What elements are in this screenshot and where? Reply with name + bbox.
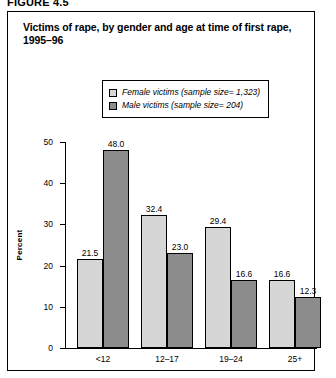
x-axis-line — [65, 348, 317, 349]
bar-female[interactable]: 16.6 — [269, 280, 295, 348]
y-axis-line — [65, 142, 66, 348]
legend-label-female: Female victims (sample size= 1,323) — [122, 87, 260, 98]
bar-group: 32.4 23.0 12–17 — [141, 142, 197, 348]
legend-swatch-male-icon — [109, 102, 117, 110]
figure-number-label: FIGURE 4.5 — [7, 0, 69, 8]
y-axis-tick-label: 40 — [44, 183, 53, 184]
y-axis-tick: 20 — [60, 266, 65, 267]
y-axis-tick: 10 — [60, 307, 65, 308]
chart-title: Victims of rape, by gender and age at ti… — [23, 21, 303, 47]
y-axis-tick-label: 30 — [44, 224, 53, 225]
legend-swatch-female-icon — [109, 89, 117, 97]
y-axis-title: Percent — [15, 230, 24, 261]
bar-group: 16.6 12.3 25+ — [269, 142, 325, 348]
y-axis-tick: 0 — [60, 348, 65, 349]
bar-value-label: 16.6 — [236, 269, 253, 279]
y-axis-tick-label: 50 — [44, 142, 53, 143]
y-axis-tick: 30 — [60, 224, 65, 225]
bar-female[interactable]: 29.4 — [205, 227, 231, 348]
y-axis-tick: 40 — [60, 183, 65, 184]
x-axis-tick-label: <12 — [96, 354, 110, 364]
bar-value-label: 23.0 — [172, 242, 189, 252]
y-axis-tick-label: 0 — [48, 348, 53, 349]
bar-male[interactable]: 23.0 — [167, 253, 193, 348]
bar-male[interactable]: 16.6 — [231, 280, 257, 348]
bar-value-label: 29.4 — [210, 216, 227, 226]
x-axis-tick-label: 19–24 — [219, 354, 243, 364]
x-axis-tick-label: 25+ — [288, 354, 302, 364]
bar-value-label: 12.3 — [300, 286, 317, 296]
bar-male[interactable]: 12.3 — [295, 297, 321, 348]
plot-area: 50 40 30 20 10 0 Percent Age 21.5 48.0 <… — [65, 142, 313, 348]
bar-female[interactable]: 32.4 — [141, 215, 167, 349]
y-axis-tick-label: 20 — [44, 265, 53, 266]
legend-item-female: Female victims (sample size= 1,323) — [109, 86, 260, 99]
figure-frame: Victims of rape, by gender and age at ti… — [7, 11, 315, 371]
legend-label-male: Male victims (sample size= 204) — [122, 100, 243, 111]
bar-female[interactable]: 21.5 — [77, 259, 103, 348]
bar-male[interactable]: 48.0 — [103, 150, 129, 348]
bar-group: 21.5 48.0 <12 — [77, 142, 133, 348]
bar-value-label: 21.5 — [82, 248, 99, 258]
x-axis-tick-label: 12–17 — [155, 354, 179, 364]
bar-value-label: 16.6 — [274, 269, 291, 279]
y-axis-tick: 50 — [60, 142, 65, 143]
bar-value-label: 32.4 — [146, 204, 163, 214]
bar-value-label: 48.0 — [108, 139, 125, 149]
bar-group: 29.4 16.6 19–24 — [205, 142, 261, 348]
legend-item-male: Male victims (sample size= 204) — [109, 99, 260, 112]
chart-legend: Female victims (sample size= 1,323) Male… — [102, 80, 269, 118]
y-axis-tick-label: 10 — [44, 306, 53, 307]
